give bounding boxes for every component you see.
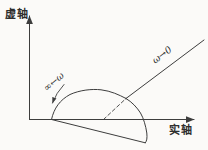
omega-to-zero-label: ω→0 [150,44,174,66]
real-axis-label: 实轴 [169,123,192,137]
nyquist-curve-upper-dome [52,89,127,119]
diagram-canvas: 虚轴 实轴 ω→0 ∞←ω [0,0,208,150]
omega-to-infinity-label: ∞←ω [41,70,66,94]
nyquist-curve-lower-chord [52,120,146,143]
asymptote-dashed-extension [104,99,127,120]
nyquist-diagram: 虚轴 实轴 ω→0 ∞←ω [0,0,208,150]
nyquist-curve-descending-branch [126,99,147,143]
imaginary-axis-label: 虚轴 [5,7,28,21]
